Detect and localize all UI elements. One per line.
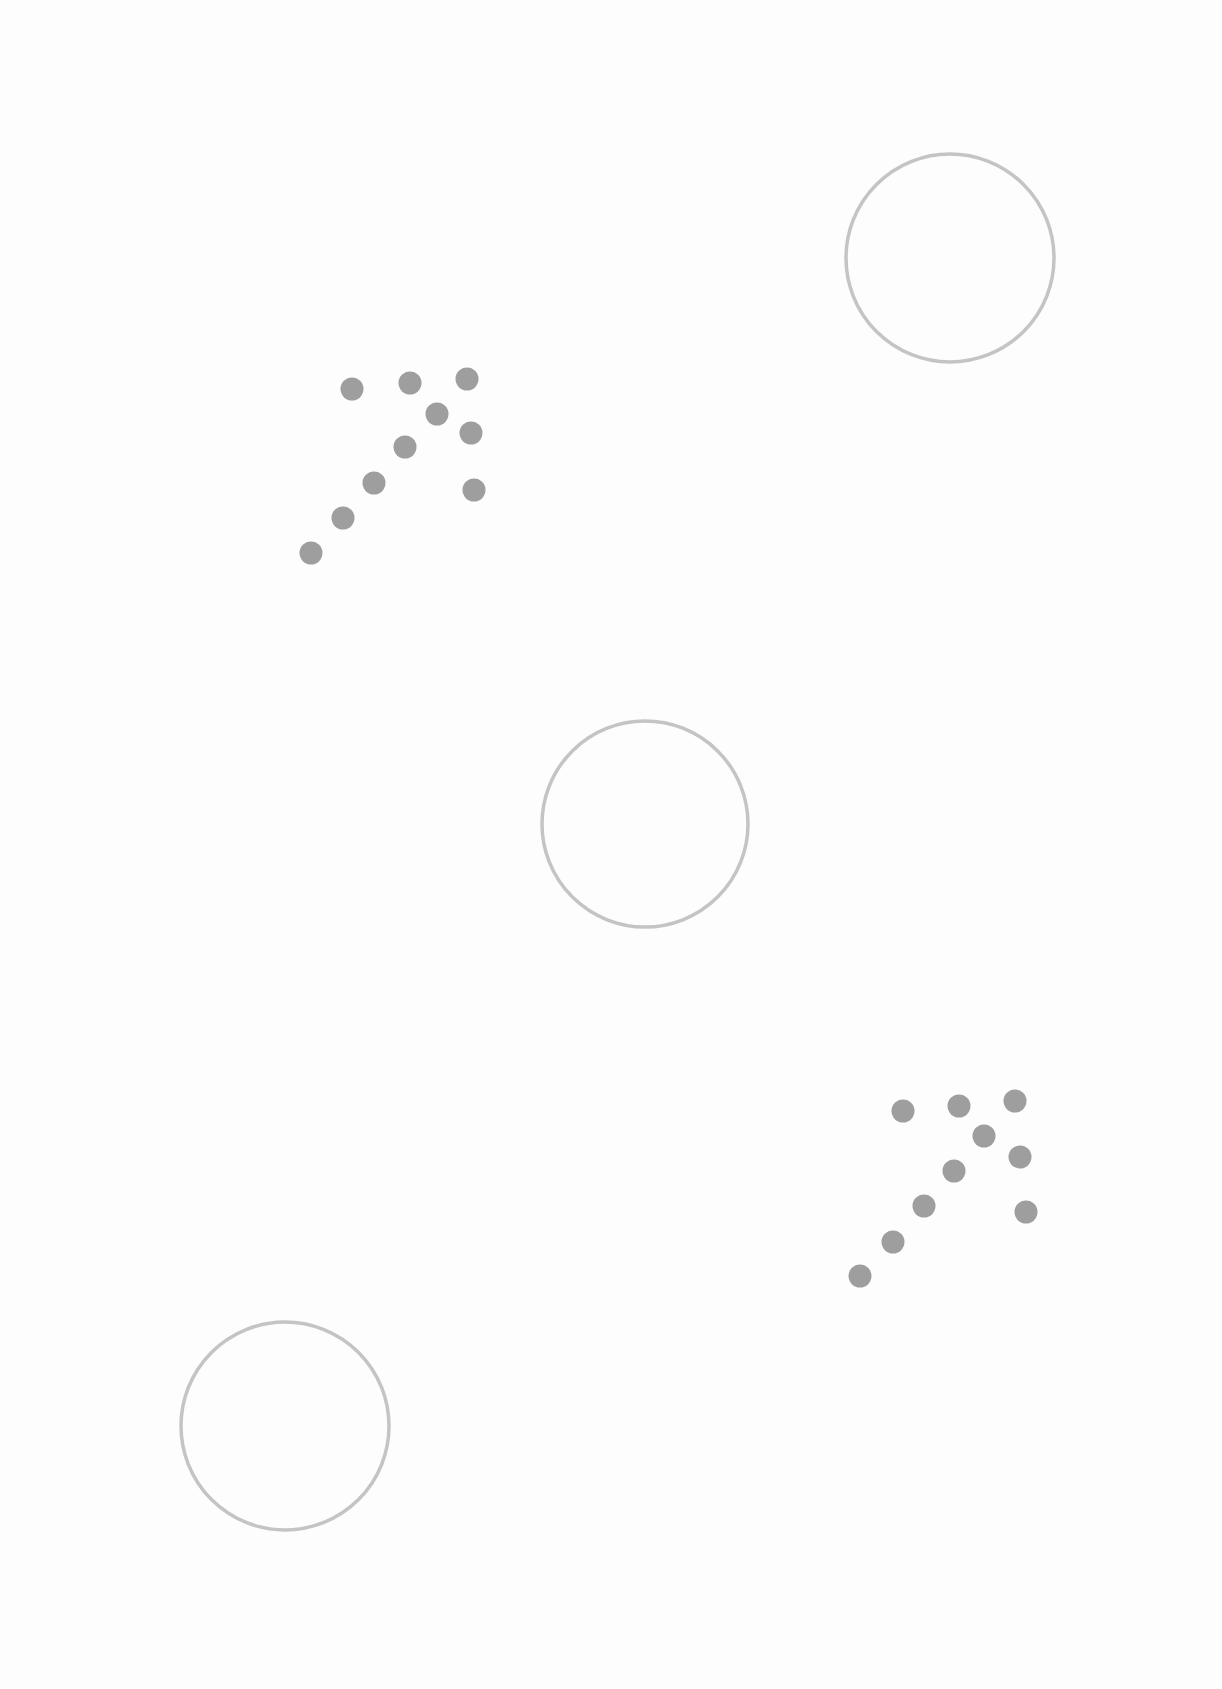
- outline-circle: [846, 154, 1054, 362]
- dot: [882, 1231, 905, 1254]
- dot-cluster: [849, 1090, 1038, 1288]
- dot-cluster: [300, 368, 486, 565]
- dot: [332, 507, 355, 530]
- outline-circle: [181, 1322, 389, 1530]
- outline-circle: [542, 721, 748, 927]
- dot: [849, 1265, 872, 1288]
- dot: [1015, 1201, 1038, 1224]
- dot: [913, 1195, 936, 1218]
- dot: [892, 1100, 915, 1123]
- dot: [456, 368, 479, 391]
- dot: [426, 403, 449, 426]
- dot: [463, 479, 486, 502]
- dot: [394, 436, 417, 459]
- dot: [341, 378, 364, 401]
- dot: [460, 422, 483, 445]
- dot: [943, 1160, 966, 1183]
- page-illustration: [0, 0, 1222, 1689]
- dot: [399, 372, 422, 395]
- dot: [948, 1095, 971, 1118]
- scanned-page: [0, 0, 1222, 1689]
- dot: [1004, 1090, 1027, 1113]
- dot: [300, 542, 323, 565]
- dot: [363, 472, 386, 495]
- dot: [1009, 1146, 1032, 1169]
- dot: [973, 1125, 996, 1148]
